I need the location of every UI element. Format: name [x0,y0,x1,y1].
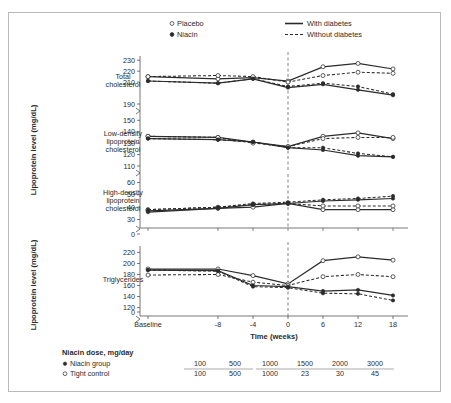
data-point [356,135,360,139]
data-point [251,274,255,278]
data-point [321,275,325,279]
data-point [391,155,394,158]
data-point [391,67,395,71]
y-tick-label: 60 [127,178,135,187]
data-point [391,92,394,95]
data-point [356,131,360,135]
data-point [286,146,289,149]
panel-label: cholesterol [106,80,141,89]
data-point [146,79,149,82]
data-point [356,152,359,155]
data-point [251,285,254,288]
axis-break-icon [136,108,140,114]
y-tick-label: 230 [123,56,135,65]
data-point [356,204,360,208]
data-point [356,70,360,74]
data-point [321,259,325,263]
data-point [146,273,150,277]
data-point [146,268,149,271]
data-point [321,292,324,295]
y-tick-label: 190 [123,100,135,109]
x-tick-label: 6 [321,320,325,329]
data-point [146,137,149,140]
data-point [146,208,149,211]
dose-value: 100 [194,369,206,378]
dose-row-label: Tight control [70,369,110,378]
legend-label-without-diabetes: Without diabetes [307,30,362,39]
data-point [321,81,324,84]
legend-label-with-diabetes: With diabetes [307,19,352,28]
data-point [216,138,219,141]
legend-marker-niacin [170,33,174,37]
figure-page: PlaceboNiacinWith diabetesWithout diabet… [0,0,451,403]
y-axis-title-lower: Lipoprotein level (mg/dL) [29,239,38,330]
data-point [391,135,395,139]
data-point [321,74,325,78]
dose-value: 500 [229,369,241,378]
y-tick-label-zero: 0 [131,308,135,317]
data-point [356,88,359,91]
y-tick-label: 140 [123,292,135,301]
dose-value: 3000 [367,359,383,368]
legend-label-niacin: Niacin [177,30,198,39]
data-point [356,272,360,276]
data-point [356,255,360,259]
panel-label: cholesterol [106,145,141,154]
data-point [286,201,289,204]
data-point [216,205,219,208]
legend-label-placebo: Placebo [177,19,204,28]
data-point [321,65,325,69]
data-point [356,292,359,295]
panel-label: Triglycerides [103,275,144,284]
y-tick-label-zero: 0 [131,230,135,239]
dose-value: 23 [301,369,309,378]
dose-value: 500 [229,359,241,368]
data-point [391,194,394,197]
legend-marker-placebo [170,22,174,26]
x-tick-label: 12 [354,320,362,329]
data-point [321,198,324,201]
data-point [286,80,290,84]
axis-break-icon [136,170,140,176]
data-point [321,146,324,149]
dose-value: 100 [194,359,206,368]
x-tick-label: 18 [389,320,397,329]
data-point [251,202,254,205]
y-tick-label: 220 [123,248,135,257]
data-point [286,286,289,289]
data-point [356,61,360,65]
data-point [321,137,325,141]
lipoprotein-chart: PlaceboNiacinWith diabetesWithout diabet… [0,0,451,403]
y-tick-label: 110 [124,162,135,171]
y-tick-label: 30 [127,215,135,224]
y-tick-label: 200 [123,259,135,268]
dose-row-marker-niacin [63,362,66,365]
data-point [356,85,359,88]
dose-value: 45 [371,369,379,378]
data-point [391,275,395,279]
data-point [356,288,359,291]
data-point [286,85,289,88]
dose-row-marker-tight-control [63,372,67,376]
data-point [146,75,150,79]
x-tick-label: 0 [286,320,290,329]
dose-value: 2000 [332,359,348,368]
data-point [321,204,325,208]
data-point [391,299,394,302]
data-point [251,140,254,143]
data-point [391,71,395,75]
data-point [216,81,219,84]
data-point [391,294,394,297]
x-tick-label: Baseline [134,320,162,329]
y-axis-title-upper: Lipoprotein level (mg/dL) [29,104,38,195]
data-point [356,197,359,200]
x-tick-label: -8 [215,320,221,329]
dose-value: 1000 [262,359,278,368]
axis-break-icon [136,226,140,232]
data-point [216,74,220,78]
dose-value: 1000 [262,369,278,378]
panel-label: cholesterol [106,204,141,213]
dose-value: 1500 [297,359,313,368]
dose-table-title: Niacin dose, mg/day [62,348,134,357]
dose-row-label: Niacin group [70,359,110,368]
